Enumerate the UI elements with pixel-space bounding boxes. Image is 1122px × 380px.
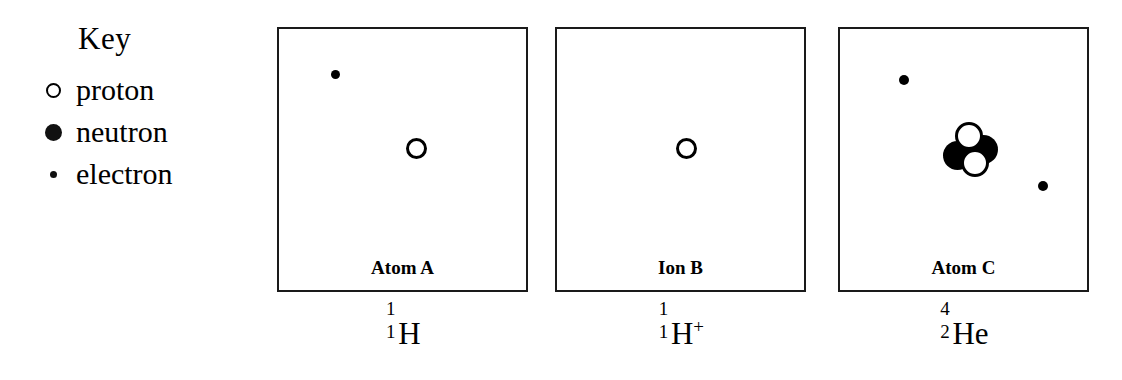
electron-icon bbox=[40, 171, 66, 178]
atomic-number: 1 bbox=[384, 322, 397, 341]
proton-particle bbox=[961, 149, 989, 177]
ion-charge: + bbox=[693, 316, 704, 337]
electron-particle bbox=[1038, 181, 1048, 191]
proton-particle bbox=[676, 138, 697, 159]
nuclide-formula: 1 1 H+ bbox=[555, 306, 806, 353]
key-item-proton-label: proton bbox=[76, 73, 154, 107]
atomic-number: 2 bbox=[938, 322, 951, 341]
atom-diagram-caption: Atom C bbox=[840, 257, 1087, 279]
nuclide-formula: 4 2 He bbox=[838, 306, 1089, 353]
electron-particle bbox=[899, 75, 909, 85]
key-item-electron-label: electron bbox=[76, 157, 173, 191]
atom-diagram-caption: Atom A bbox=[279, 257, 526, 279]
element-symbol: He bbox=[952, 316, 988, 351]
key-item-proton: proton bbox=[40, 70, 154, 110]
atom-diagram-box: Atom C bbox=[838, 27, 1089, 292]
proton-particle bbox=[955, 122, 983, 150]
atomic-number: 1 bbox=[657, 322, 670, 341]
key-item-neutron-label: neutron bbox=[76, 115, 168, 149]
atom-diagram-caption: Ion B bbox=[557, 257, 804, 279]
neutron-icon bbox=[40, 124, 66, 141]
mass-number: 1 bbox=[657, 299, 670, 318]
nuclide-formula: 1 1 H bbox=[277, 306, 528, 353]
atom-diagram-box: Ion B bbox=[555, 27, 806, 292]
key-item-neutron: neutron bbox=[40, 112, 168, 152]
proton-icon bbox=[40, 83, 66, 98]
proton-particle bbox=[406, 138, 427, 159]
element-symbol: H bbox=[398, 316, 420, 351]
key-item-electron: electron bbox=[40, 154, 173, 194]
atom-diagram-box: Atom A bbox=[277, 27, 528, 292]
mass-number: 1 bbox=[384, 299, 397, 318]
key-title: Key bbox=[78, 22, 131, 56]
electron-particle bbox=[331, 70, 340, 79]
key-legend: Key proton neutron electron bbox=[0, 22, 265, 222]
mass-number: 4 bbox=[938, 299, 951, 318]
element-symbol: H bbox=[671, 316, 693, 351]
